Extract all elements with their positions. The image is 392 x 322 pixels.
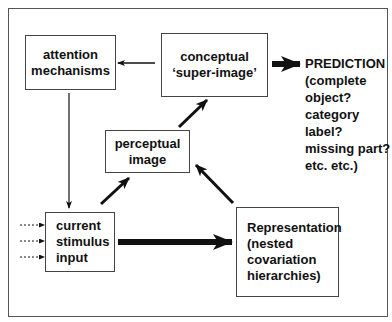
node-conceptual-super-image: conceptual ‘super-image’	[161, 33, 268, 97]
node-label: ‘super-image’	[172, 65, 257, 81]
prediction-heading: PREDICTION	[305, 55, 390, 72]
node-perceptual-image: perceptual image	[105, 130, 190, 173]
prediction-line: object?	[305, 89, 390, 106]
node-label: Representation	[247, 220, 338, 236]
node-label: current	[56, 218, 114, 234]
prediction-line: etc. etc.)	[305, 157, 390, 174]
node-label: stimulus	[56, 234, 114, 250]
node-label: attention	[43, 47, 98, 63]
node-label: perceptual	[115, 136, 181, 152]
node-label: conceptual	[180, 49, 249, 65]
node-attention-mechanisms: attention mechanisms	[25, 35, 116, 90]
prediction-line: category	[305, 106, 390, 123]
node-label: input	[56, 250, 114, 266]
node-current-stimulus-input: current stimulus input	[45, 212, 115, 272]
prediction-line: missing part?	[305, 140, 390, 157]
node-representation: Representation (nested covariation hiera…	[236, 207, 339, 297]
node-label: hierarchies)	[247, 268, 338, 284]
node-label: (nested	[247, 236, 338, 252]
node-label: mechanisms	[31, 63, 110, 79]
prediction-text: PREDICTION (complete object? category la…	[305, 55, 390, 174]
node-label: image	[129, 152, 167, 168]
prediction-line: label?	[305, 123, 390, 140]
prediction-line: (complete	[305, 72, 390, 89]
node-label: covariation	[247, 252, 338, 268]
